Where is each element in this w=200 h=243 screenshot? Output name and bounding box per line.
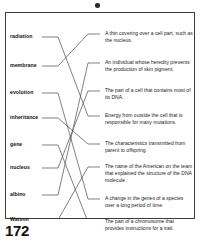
- term-nucleus[interactable]: nucleus: [10, 164, 30, 170]
- scan-speck-icon: [95, 3, 100, 8]
- term-gene[interactable]: gene: [10, 141, 22, 147]
- match-line-radiation-to-def-radiation: [42, 37, 100, 116]
- match-line-albino-to-def-albino: [42, 63, 100, 195]
- definition-def-nucleus[interactable]: The part of a cell that contains most of…: [105, 87, 193, 101]
- definition-def-radiation[interactable]: Energy from outside the cell that is res…: [105, 112, 193, 126]
- match-line-inheritance-to-def-inheritance: [42, 118, 100, 144]
- page-number: 172: [5, 222, 29, 239]
- definition-def-albino[interactable]: An individual whose heredity prevents th…: [105, 59, 193, 73]
- term-inheritance[interactable]: inheritance: [10, 114, 38, 120]
- matching-exercise-box: radiationmembraneevolutioninheritancegen…: [5, 12, 195, 219]
- definition-def-gene[interactable]: The part of a chromosome that provides i…: [105, 218, 193, 232]
- term-albino[interactable]: albino: [10, 191, 26, 197]
- definition-def-inheritance[interactable]: The characteristics transmitted from par…: [105, 140, 193, 154]
- match-line-gene-to-def-gene: [42, 145, 100, 218]
- match-line-evolution-to-def-evolution: [42, 93, 100, 199]
- term-evolution[interactable]: evolution: [10, 89, 34, 95]
- match-line-membrane-to-def-membrane: [42, 34, 100, 66]
- term-membrane[interactable]: membrane: [10, 62, 37, 68]
- term-radiation[interactable]: radiation: [10, 33, 32, 39]
- worksheet-page: radiationmembraneevolutioninheritancegen…: [0, 0, 200, 243]
- match-line-nucleus-to-def-nucleus: [42, 91, 100, 168]
- definition-def-evolution[interactable]: A change in the genes of a species over …: [105, 195, 193, 209]
- definition-def-membrane[interactable]: A thin covering over a cell part, such a…: [105, 30, 193, 44]
- definition-def-watson[interactable]: The name of the American on the team tha…: [105, 163, 193, 185]
- match-line-watson-to-def-watson: [42, 167, 100, 218]
